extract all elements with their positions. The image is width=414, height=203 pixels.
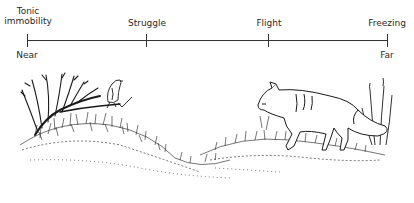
tick-far: [387, 34, 388, 47]
tick-struggle: [146, 34, 147, 47]
tick-label-struggle: Struggle: [126, 18, 168, 28]
tick-label-line: immobility: [4, 16, 52, 26]
grass-left-icon: [20, 112, 230, 178]
predator-prey-illustration: [0, 60, 414, 203]
axis-line: [27, 40, 388, 41]
tick-label-flight: Flight: [252, 18, 286, 28]
tick-label-tonic-immobility: Tonic immobility: [4, 6, 52, 26]
tick-near: [27, 34, 28, 47]
shrub-icon: [21, 73, 120, 135]
far-label: Far: [376, 50, 398, 60]
tick-label-freezing: Freezing: [363, 18, 411, 28]
fox-icon: [258, 82, 387, 150]
tick-flight: [268, 34, 269, 47]
near-label: Near: [14, 50, 40, 60]
tick-label-line: Tonic: [4, 6, 52, 16]
